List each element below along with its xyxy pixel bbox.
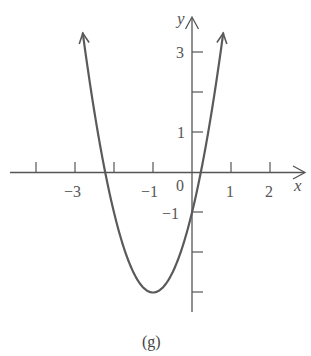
- parabola-line: [83, 33, 223, 292]
- y-tick-label-1: 1: [177, 124, 185, 141]
- origin-label: 0: [176, 177, 184, 194]
- y-tick-label-neg1: −1: [162, 205, 179, 222]
- parabola-layer: y x −3 −1 0 1 2 3 1 −1 (g): [0, 0, 311, 356]
- x-axis-label: x: [293, 176, 302, 195]
- y-axis-label: y: [175, 9, 185, 28]
- x-tick-label-neg3: −3: [64, 183, 81, 200]
- x-tick-label-neg1: −1: [141, 183, 158, 200]
- y-tick-label-3: 3: [176, 44, 184, 61]
- x-tick-label-1: 1: [226, 183, 234, 200]
- x-tick-label-2: 2: [265, 183, 273, 200]
- figure-caption: (g): [142, 333, 161, 351]
